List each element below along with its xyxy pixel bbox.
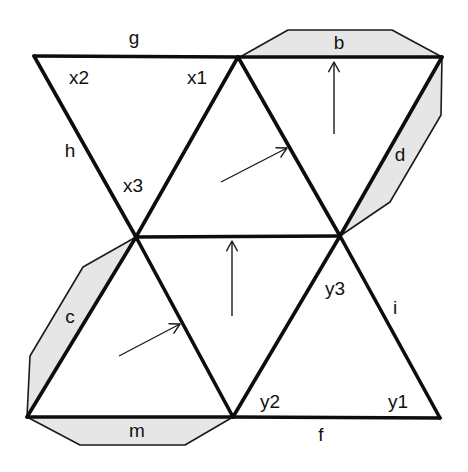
- flap-label-b: b: [334, 32, 345, 53]
- vertex-label-y1: y1: [388, 391, 408, 412]
- flap-label-d: d: [395, 144, 406, 165]
- vertex-label-y3: y3: [325, 278, 345, 299]
- vertex-label-x1: x1: [187, 67, 207, 88]
- flap-label-c: c: [65, 306, 75, 327]
- edge-label-g: g: [129, 27, 140, 48]
- vertex-label-x2: x2: [69, 67, 89, 88]
- vertex-label-y2: y2: [260, 391, 280, 412]
- edge-TL-TM: [34, 56, 238, 57]
- edge-ML-MR: [136, 236, 340, 237]
- vertex-label-x3: x3: [123, 175, 143, 196]
- edge-label-f: f: [318, 424, 324, 445]
- edge-label-i: i: [393, 297, 397, 318]
- flap-label-m: m: [129, 420, 145, 441]
- octahedron-net-diagram: b d c m g h i f x1 x2 x3 y1 y2 y3: [0, 0, 468, 472]
- edge-BM-BR: [233, 417, 440, 418]
- edge-label-h: h: [65, 140, 76, 161]
